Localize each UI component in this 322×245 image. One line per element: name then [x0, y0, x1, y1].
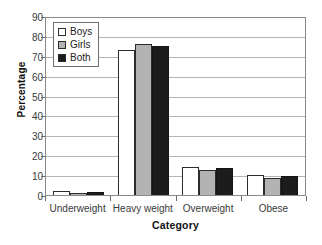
y-tick-mark: [41, 116, 45, 117]
y-tick-mark: [41, 176, 45, 177]
legend-swatch-girls-icon: [58, 41, 66, 49]
y-tick-label: 80: [13, 31, 43, 42]
bar-girls-3: [264, 178, 281, 195]
bar-girls-2: [199, 170, 216, 195]
x-tick-mark: [110, 196, 111, 201]
legend-item-girls: Girls: [58, 39, 92, 50]
y-tick-label: 0: [13, 191, 43, 202]
legend-label: Boys: [70, 26, 92, 37]
y-tick-label: 90: [13, 12, 43, 23]
bar-group: [111, 18, 176, 195]
x-tick-mark: [241, 196, 242, 201]
bar-chart: Percentage 0102030405060708090 Underweig…: [0, 0, 322, 245]
bar-boys-0: [53, 191, 70, 195]
legend-item-both: Both: [58, 52, 92, 63]
y-tick-mark: [41, 136, 45, 137]
legend-swatch-both-icon: [58, 54, 66, 62]
bar-group: [240, 18, 305, 195]
bar-both-3: [281, 176, 298, 195]
x-axis-title: Category: [45, 219, 306, 231]
chart-legend: BoysGirlsBoth: [53, 22, 99, 67]
legend-item-boys: Boys: [58, 26, 92, 37]
bar-boys-3: [247, 175, 264, 195]
x-tick-label: Overweight: [176, 203, 241, 214]
x-tick-mark: [176, 196, 177, 201]
y-tick-mark: [41, 17, 45, 18]
y-tick-mark: [41, 37, 45, 38]
y-tick-mark: [41, 97, 45, 98]
y-tick-label: 10: [13, 171, 43, 182]
bar-group: [176, 18, 241, 195]
bar-both-1: [152, 46, 169, 195]
x-tick-label: Underweight: [45, 203, 110, 214]
y-tick-label: 60: [13, 71, 43, 82]
y-tick-mark: [41, 57, 45, 58]
y-tick-mark: [41, 156, 45, 157]
y-tick-mark: [41, 77, 45, 78]
legend-label: Both: [70, 52, 91, 63]
legend-label: Girls: [70, 39, 91, 50]
bar-boys-1: [118, 50, 135, 195]
bar-both-0: [87, 192, 104, 195]
y-tick-label: 20: [13, 151, 43, 162]
y-tick-label: 40: [13, 111, 43, 122]
x-tick-mark: [45, 196, 46, 201]
legend-swatch-boys-icon: [58, 28, 66, 36]
y-tick-label: 50: [13, 91, 43, 102]
x-tick-mark: [306, 196, 307, 201]
y-tick-label: 30: [13, 131, 43, 142]
y-tick-label: 70: [13, 51, 43, 62]
x-tick-label: Obese: [241, 203, 306, 214]
bar-boys-2: [182, 167, 199, 195]
x-axis-tick-labels: UnderweightHeavy weightOverweightObese: [45, 203, 306, 214]
bar-girls-0: [70, 193, 87, 195]
bar-girls-1: [135, 44, 152, 195]
x-tick-label: Heavy weight: [110, 203, 175, 214]
bar-both-2: [216, 168, 233, 195]
